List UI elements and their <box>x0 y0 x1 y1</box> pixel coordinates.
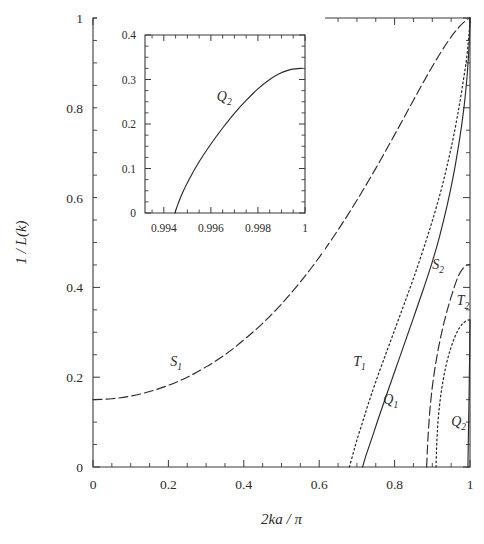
curve-t1 <box>349 18 470 467</box>
annotation-q1: Q1 <box>383 392 398 410</box>
inset-y-tick-label: 0 <box>130 207 136 219</box>
inset-x-tick-label: 0.994 <box>151 222 177 234</box>
label-subscript: 1 <box>177 362 182 372</box>
label-subscript: 2 <box>465 301 470 311</box>
annotation-s2: S2 <box>432 257 444 275</box>
y-axis-title: 1 / L(k) <box>13 220 30 264</box>
x-tick-label: 0.6 <box>311 477 328 492</box>
inset-x-tick-label: 1 <box>302 222 308 234</box>
x-tick-label: 0.4 <box>235 477 252 492</box>
y-tick-label: 1 <box>76 11 83 26</box>
label-subscript: 1 <box>393 400 398 410</box>
inset-x-tick-label: 0.996 <box>198 222 224 234</box>
curve-q1 <box>363 18 470 467</box>
label-letter: S <box>170 354 177 369</box>
label-subscript: 2 <box>227 97 232 107</box>
inset-x-tick-label: 0.998 <box>245 222 271 234</box>
y-tick-label: 0 <box>76 460 83 475</box>
curve-t2 <box>436 320 470 467</box>
inset-y-tick-label: 0.3 <box>122 74 137 86</box>
annotation-t1: T1 <box>353 354 366 372</box>
axis-titles: 2ka / π1 / L(k) <box>13 220 302 527</box>
y-tick-label: 0.8 <box>66 101 83 116</box>
label-subscript: 2 <box>461 422 466 432</box>
label-letter: Q <box>451 414 461 429</box>
inset-y-tick-label: 0.1 <box>122 163 137 175</box>
label-subscript: 1 <box>361 362 366 372</box>
figure-container: 00.20.40.60.8100.20.40.60.81 S1T1Q1S2T2Q… <box>0 0 484 544</box>
x-tick-label: 1 <box>467 477 474 492</box>
inset-y-tick-label: 0.2 <box>122 118 137 130</box>
label-subscript: 2 <box>439 265 444 275</box>
x-axis-title: 2ka / π <box>261 511 302 527</box>
inset-chart: 0.9940.9960.998100.10.20.30.4Q2 <box>97 17 325 251</box>
y-tick-label: 0.6 <box>66 191 83 206</box>
label-letter: S <box>432 257 439 272</box>
y-tick-label: 0.4 <box>66 280 83 295</box>
inset-y-tick-label: 0.4 <box>122 29 137 41</box>
x-tick-label: 0 <box>90 477 97 492</box>
y-tick-label: 0.2 <box>66 370 83 385</box>
x-tick-label: 0.8 <box>386 477 403 492</box>
annotation-q2: Q2 <box>451 414 466 432</box>
label-letter: Q <box>383 392 393 407</box>
chart-svg: 00.20.40.60.8100.20.40.60.81 S1T1Q1S2T2Q… <box>0 0 484 544</box>
annotation-t2: T2 <box>457 293 470 311</box>
annotation-s1: S1 <box>170 354 182 372</box>
x-tick-label: 0.2 <box>160 477 177 492</box>
label-letter: Q <box>217 89 227 104</box>
